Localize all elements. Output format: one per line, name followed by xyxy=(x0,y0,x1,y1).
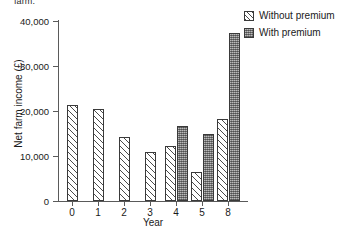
bar-chart: farm. 010,00020,00030,00040,000 0123458 … xyxy=(0,0,350,227)
bar-with-premium xyxy=(229,33,240,201)
plot-area xyxy=(58,21,228,201)
x-tick xyxy=(98,202,99,206)
bar-without-premium xyxy=(119,137,130,201)
legend-label-with-premium: With premium xyxy=(259,27,321,38)
y-tick-label: 40,000 xyxy=(20,16,49,27)
x-tick xyxy=(72,202,73,206)
y-tick-label: 10,000 xyxy=(20,151,49,162)
x-axis-line xyxy=(58,201,248,202)
bar-without-premium xyxy=(145,152,156,201)
y-tick-label: 30,000 xyxy=(20,61,49,72)
legend-item-without-premium: Without premium xyxy=(244,9,335,22)
x-axis-title: Year xyxy=(58,217,248,227)
bar-without-premium xyxy=(67,105,78,201)
y-tick xyxy=(53,201,58,202)
x-tick xyxy=(150,202,151,206)
bar-with-premium xyxy=(177,126,188,201)
y-axis-title: Net farm income (£) xyxy=(13,34,24,174)
x-tick xyxy=(124,202,125,206)
truncated-caption: farm. xyxy=(14,0,35,6)
legend-item-with-premium: With premium xyxy=(244,26,335,39)
bar-without-premium xyxy=(217,119,228,201)
legend-swatch-with-premium-icon xyxy=(244,28,254,38)
x-tick xyxy=(228,202,229,206)
x-tick xyxy=(202,202,203,206)
chart-legend: Without premium With premium xyxy=(244,9,335,43)
x-tick xyxy=(176,202,177,206)
bar-without-premium xyxy=(165,146,176,201)
y-tick-label: 20,000 xyxy=(20,106,49,117)
y-tick-label: 0 xyxy=(44,196,49,207)
bar-without-premium xyxy=(93,109,104,201)
legend-label-without-premium: Without premium xyxy=(259,10,335,21)
bar-without-premium xyxy=(191,172,202,201)
legend-swatch-without-premium-icon xyxy=(244,11,254,21)
bar-with-premium xyxy=(203,134,214,201)
